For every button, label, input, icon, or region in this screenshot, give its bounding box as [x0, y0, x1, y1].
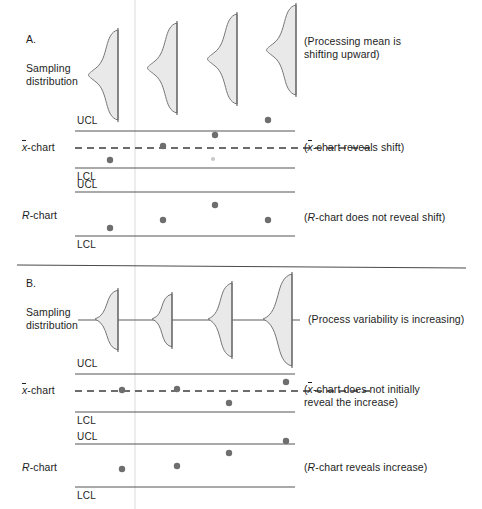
panel-b-xbar-note-line1: (x-chart does not initially [304, 383, 420, 397]
r-chart-suffix-b: -chart [30, 461, 57, 473]
panel-b-r-ucl-label: UCL [77, 430, 98, 443]
panel-b-sampling-label-line2: distribution [26, 319, 78, 332]
panel-b-xbar-note-rest: -chart does not initially [313, 383, 420, 395]
distribution-curve-a-2 [148, 21, 178, 115]
r-symbol-b: R [22, 461, 30, 473]
panel-a-r-note-rest: -chart does not reveal shift) [315, 211, 445, 223]
distribution-curve-a-1 [89, 28, 119, 122]
panel-b-r-note-rest: -chart reveals increase) [315, 461, 427, 473]
distribution-curve-b-3 [208, 281, 232, 359]
panel-b-r-lcl-label: LCL [77, 489, 96, 502]
distribution-curve-b-2 [152, 292, 172, 349]
panel-a-sampling-distributions [89, 3, 297, 122]
panel-a-xbar-note: (x-chart reveals shift) [304, 141, 404, 155]
data-point-a-r-3 [212, 202, 218, 208]
data-point-b-xbar-1 [119, 387, 125, 393]
data-point-b-xbar-2 [174, 386, 180, 392]
distribution-curve-a-3 [208, 12, 238, 106]
panel-a-sampling-label-line1: Sampling [26, 62, 71, 75]
panel-a-xbar-chart-label: x-chart [22, 141, 55, 154]
panel-b-r-chart-label: R-chart [22, 461, 57, 474]
r-symbol-a: R [22, 209, 30, 221]
data-point-b-r-4 [283, 438, 289, 444]
data-point-a-r-2 [160, 217, 166, 223]
data-point-a-xbar-1 [107, 157, 113, 163]
scan-artifact-dot-a [211, 157, 215, 161]
panel-b-sampling-distributions [78, 272, 300, 368]
data-point-b-r-1 [119, 466, 125, 472]
data-point-a-r-1 [107, 225, 113, 231]
distribution-curve-a-4 [267, 3, 297, 97]
data-point-a-r-4 [265, 217, 271, 223]
xbar-chart-suffix-b: -chart [27, 384, 54, 396]
xbar-chart-suffix-a: -chart [27, 141, 54, 153]
panel-a-r-chart [75, 192, 295, 236]
panel-a-distribution-note-line2: shifting upward) [304, 48, 380, 62]
data-point-b-r-3 [226, 450, 232, 456]
spc-figure: .curve { fill:#e9e9e9; stroke:#777777; s… [0, 0, 482, 509]
xbar-symbol-a: x [22, 141, 27, 154]
panel-b-xbar-lcl-label: LCL [77, 414, 96, 427]
distribution-curve-b-4 [263, 272, 292, 368]
panel-b-distribution-note: (Process variability is increasing) [308, 313, 464, 327]
panel-b-xbar-ucl-label: UCL [77, 357, 98, 370]
data-point-b-xbar-4 [283, 379, 289, 385]
panel-a-r-lcl-label: LCL [77, 238, 96, 251]
distribution-curve-b-1 [95, 288, 118, 352]
panel-a-xbar-ucl-label: UCL [77, 114, 98, 127]
panel-b-r-note: (R-chart reveals increase) [304, 461, 427, 475]
xbar-symbol-b: x [22, 384, 27, 397]
panel-a-distribution-note-line1: (Processing mean is [304, 35, 401, 49]
panel-b-letter: B. [26, 277, 36, 290]
data-point-b-r-2 [174, 463, 180, 469]
r-chart-suffix-a: -chart [30, 209, 57, 221]
panel-b-sampling-label-line1: Sampling [26, 306, 71, 319]
panel-b-xbar-chart-label: x-chart [22, 384, 55, 397]
xbar-symbol-note-b: x [308, 383, 313, 397]
panel-a-xbar-note-rest: -chart reveals shift) [313, 141, 404, 153]
data-point-a-xbar-2 [160, 143, 166, 149]
data-point-b-xbar-3 [226, 400, 232, 406]
panel-a-r-ucl-label: UCL [77, 178, 98, 191]
data-point-a-xbar-3 [212, 132, 218, 138]
panel-a-r-chart-label: R-chart [22, 209, 57, 222]
xbar-symbol-note-a: x [308, 141, 313, 155]
data-point-a-xbar-4 [265, 117, 271, 123]
panel-divider [17, 265, 466, 268]
panel-b-xbar-note-line2: reveal the increase) [304, 396, 398, 410]
panel-a-r-note: (R-chart does not reveal shift) [304, 211, 445, 225]
panel-a-letter: A. [26, 33, 36, 46]
panel-b-r-chart [75, 438, 295, 487]
panel-a-sampling-label-line2: distribution [26, 75, 78, 88]
